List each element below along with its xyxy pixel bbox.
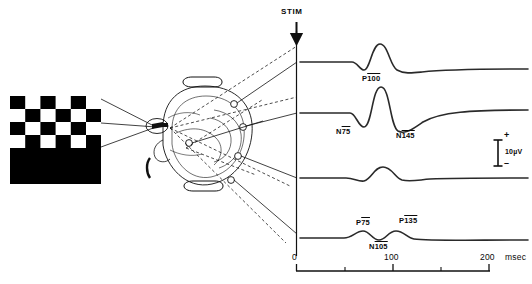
time-tick-label-100: 100 — [384, 252, 399, 262]
time-axis-unit-label: msec — [505, 252, 526, 262]
time-axis-layer — [0, 0, 532, 284]
vep-figure: P100 N75 N145 P75 P135 N105 STIM + 10µV … — [0, 0, 532, 284]
time-axis — [296, 264, 490, 271]
time-tick-label-200: 200 — [480, 252, 495, 262]
time-tick-label-0: 0 — [292, 252, 297, 262]
